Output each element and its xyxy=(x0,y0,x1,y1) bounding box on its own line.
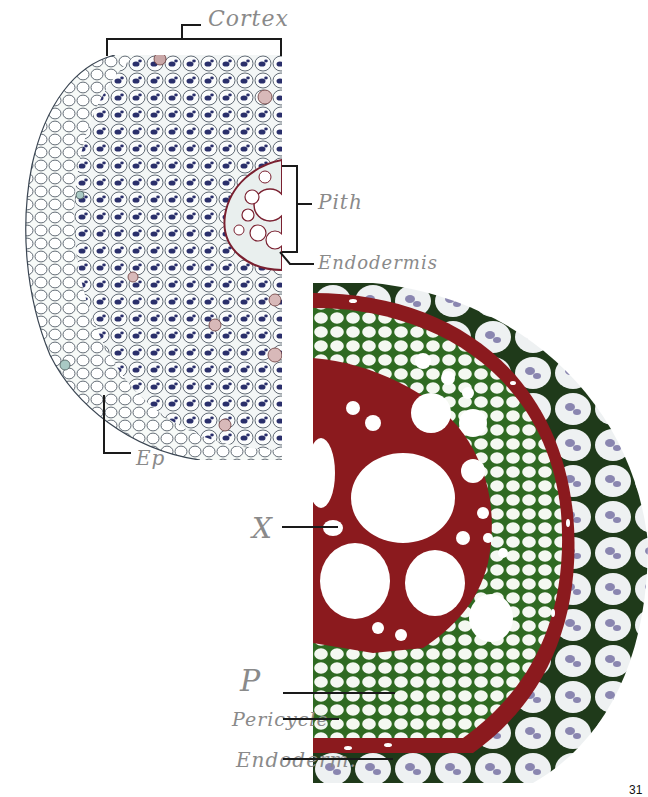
page-number: 31 xyxy=(629,783,642,797)
label-endodermis-bottom: Endoderm. xyxy=(236,748,357,772)
cortex-bracket-top xyxy=(106,38,282,40)
vascular-cylinder-image xyxy=(313,283,648,783)
endodermis-leader-bottom xyxy=(283,758,393,760)
root-cross-section-micrograph xyxy=(20,55,282,460)
label-phloem: P xyxy=(240,663,261,698)
epidermis-bracket-bottom xyxy=(103,452,131,454)
label-endodermis-top: Endodermis xyxy=(318,252,438,273)
endodermis-leader-top xyxy=(278,250,318,270)
pith-bracket-vertical xyxy=(296,165,298,253)
cortex-bracket-left xyxy=(106,38,108,56)
vascular-cylinder-micrograph xyxy=(313,283,648,783)
label-pith: Pith xyxy=(318,190,363,214)
label-xylem: X xyxy=(252,512,273,545)
pith-leader xyxy=(296,203,312,205)
cortex-bracket-right xyxy=(280,38,282,56)
root-cross-section-image xyxy=(20,55,282,460)
label-cortex: Cortex xyxy=(208,6,289,31)
cortex-bracket-stem-h xyxy=(181,24,201,26)
label-epidermis: Ep xyxy=(136,446,165,470)
phloem-leader xyxy=(283,692,395,694)
epidermis-bracket-vertical xyxy=(103,395,105,453)
xylem-leader xyxy=(282,526,338,528)
pericycle-leader xyxy=(283,718,339,720)
cortex-bracket-stem xyxy=(181,24,183,39)
